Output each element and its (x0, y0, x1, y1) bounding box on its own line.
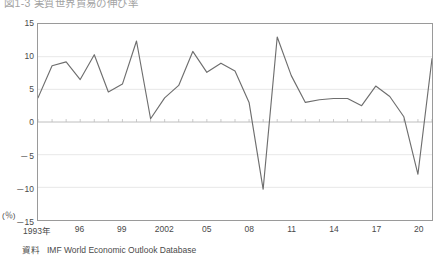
y-axis-tick-label: 10 (6, 51, 34, 61)
x-axis: 1993年96992002050811141720 (37, 224, 433, 236)
x-axis-tick-label: 11 (287, 224, 296, 234)
source-note: 資料IMF World Economic Outlook Database (22, 243, 196, 255)
source-label: 資料 (22, 245, 40, 255)
x-axis-tick-label: 14 (329, 224, 338, 234)
x-axis-tick-label: 99 (117, 224, 126, 234)
x-axis-tick-label: 08 (244, 224, 253, 234)
y-axis-tick-label: 5 (6, 84, 34, 94)
line-chart-svg (38, 24, 432, 220)
x-axis-tick-label: 1993年 (23, 224, 51, 236)
plot-area (37, 23, 433, 221)
y-axis: 151050－5－10－15 (0, 23, 34, 221)
chart-figure: 図1-3 実質世界貿易の伸び率 151050－5－10－15 (％) 1993年… (0, 0, 443, 264)
y-axis-tick-label: 15 (6, 18, 34, 28)
x-axis-tick-label: 05 (202, 224, 211, 234)
x-axis-tick-label: 20 (414, 224, 423, 234)
y-axis-tick-label: －10 (6, 182, 34, 194)
y-axis-tick-label: 0 (6, 117, 34, 127)
chart-title: 図1-3 実質世界貿易の伸び率 (4, 0, 138, 10)
y-axis-unit-label: (％) (2, 209, 15, 220)
x-axis-tick-label: 2002 (155, 224, 174, 234)
data-line-series-0 (38, 37, 432, 189)
source-text: IMF World Economic Outlook Database (47, 245, 196, 255)
x-axis-tick-label: 17 (372, 224, 381, 234)
x-axis-tick-label: 96 (75, 224, 84, 234)
y-axis-tick-label: －5 (6, 149, 34, 161)
